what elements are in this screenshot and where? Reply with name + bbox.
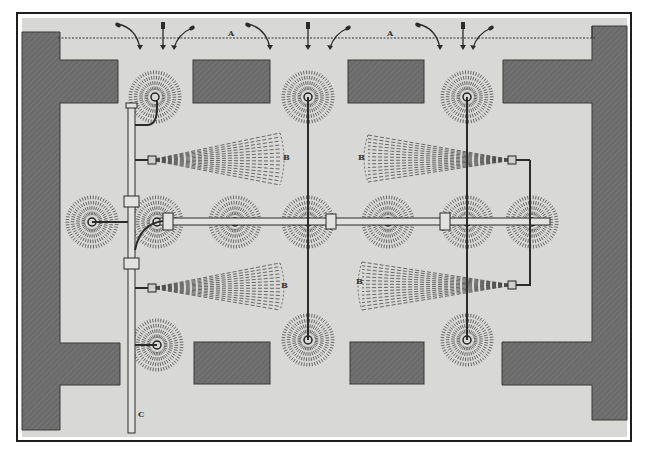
horizontal-main-pipe [160,218,550,225]
block-bottom-right [350,342,424,384]
pipe-coupling-upper [124,196,139,207]
block-top-right [348,60,424,103]
label-b-lower-left: B [281,280,288,290]
fan-nozzle-icon [148,284,156,292]
fan-nozzle-icon [508,156,516,164]
fan-nozzle-icon [508,281,516,289]
pipe-coupling-2 [326,214,336,229]
label-b-upper-left: B [283,152,290,162]
label-a-1: A [227,28,235,38]
sprinkler-plan-diagram: A A B B B B C [0,0,649,458]
pipe-coupling-lower [124,258,139,269]
pipe-coupling-3 [440,213,450,230]
pipe-cap-top [126,103,137,108]
label-a-2: A [386,28,394,38]
label-b-lower-right: B [356,276,363,286]
block-bottom-left [194,342,270,384]
label-c: C [138,409,144,419]
sprinkler-head-icon [151,93,159,101]
block-top-left [193,60,270,103]
fan-nozzle-icon [148,156,156,164]
label-b-upper-right: B [358,152,365,162]
pipe-coupling-1 [163,213,173,230]
